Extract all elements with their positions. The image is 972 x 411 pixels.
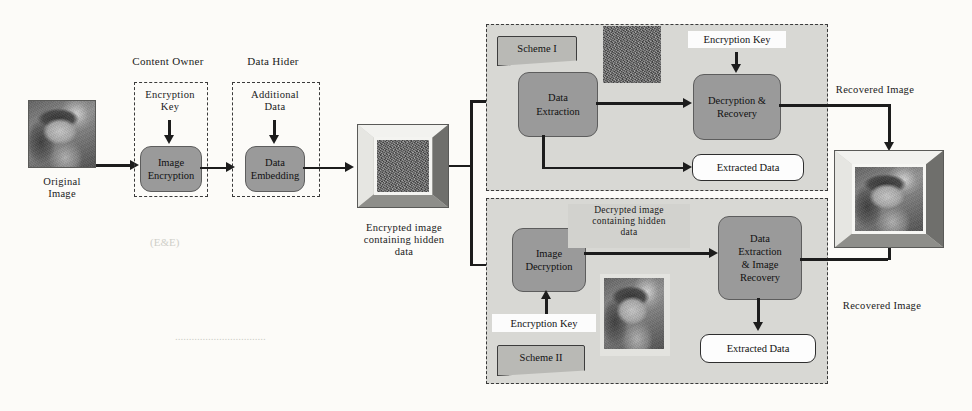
scheme-two-recovered-image-label: Recovered Image — [826, 300, 938, 312]
arrowhead-data-to-embedding — [269, 135, 279, 144]
original-image-caption: Original Image — [14, 176, 110, 200]
scheme-two-banner: Scheme II — [497, 345, 585, 370]
decrypted-image-thumbnail — [600, 274, 670, 356]
scheme-one-recovered-image-label: Recovered Image — [820, 84, 930, 96]
arrowhead-extraction2-to-extracted — [753, 322, 763, 331]
decrypted-caption-line1: Decrypted image — [568, 205, 690, 216]
connector-encryption-to-embedding — [200, 167, 228, 170]
arrowhead-key-to-decryption-recovery — [731, 64, 741, 73]
scheme-one-banner: Scheme I — [497, 36, 577, 60]
encrypted-noise-block — [377, 140, 429, 192]
encrypted-caption-line3: data — [348, 246, 460, 258]
scheme-one-encrypted-preview — [603, 26, 661, 83]
background-smudge: ................................. — [175, 330, 266, 342]
arrowhead-key2-to-decryption — [541, 290, 551, 299]
background-smudge: (E&E) — [150, 236, 179, 248]
scheme-two-extracted-data-label: Extracted Data — [727, 343, 790, 354]
encrypted-caption-line2: containing hidden — [348, 234, 460, 246]
arrowhead-decryption-to-extraction2 — [709, 248, 718, 258]
arrowhead-key-to-encryption — [164, 135, 174, 144]
decryption-recovery-label: Decryption & Recovery — [708, 94, 766, 120]
recovered-image-frame — [834, 150, 944, 248]
scheme-one-extracted-data[interactable]: Extracted Data — [692, 154, 804, 181]
scheme-one-banner-label: Scheme I — [517, 43, 556, 54]
image-encryption-label: Image Encryption — [148, 156, 195, 182]
additional-data-label: Additional Data — [232, 89, 318, 113]
data-extraction-process[interactable]: Data Extraction — [518, 72, 598, 137]
original-image-caption-line1: Original — [14, 176, 110, 188]
connector-recovery-to-recovered-v — [888, 104, 891, 144]
original-image-thumbnail — [28, 100, 96, 168]
arrowhead-extraction-to-extracted — [683, 162, 692, 172]
arrowhead-embedding-to-encrypted — [345, 162, 354, 172]
decrypted-caption-line2: containing hidden — [568, 216, 690, 227]
encrypted-image-frame — [357, 124, 449, 208]
scheme-two-extracted-data[interactable]: Extracted Data — [700, 334, 816, 363]
data-embedding-process[interactable]: Data Embedding — [245, 146, 305, 192]
data-extraction-image-recovery-label: Data Extraction & Image Recovery — [738, 232, 782, 285]
data-embedding-label: Data Embedding — [251, 156, 299, 182]
connector-extraction2-to-recovered-h — [800, 258, 888, 261]
encryption-key-1-label: Encryption Key — [128, 89, 212, 113]
encryption-key-1-line1: Encryption — [128, 89, 212, 101]
content-owner-label: Content Owner — [118, 55, 218, 68]
data-hider-label: Data Hider — [225, 55, 321, 68]
diagram-canvas: (E&E) ................................. … — [0, 0, 972, 411]
image-encryption-process[interactable]: Image Encryption — [140, 146, 202, 192]
scheme-one-encryption-key-label: Encryption Key — [704, 34, 771, 45]
data-extraction-label: Data Extraction — [536, 91, 580, 117]
encrypted-caption-line1: Encrypted image — [348, 222, 460, 234]
data-extraction-image-recovery-process[interactable]: Data Extraction & Image Recovery — [718, 216, 802, 300]
connector-extraction-to-extracted-v — [542, 135, 545, 169]
connector-extraction-to-extracted-h — [542, 167, 686, 170]
connector-encrypted-bus-vertical — [470, 100, 473, 266]
scheme-one-extracted-data-label: Extracted Data — [717, 162, 780, 173]
connector-original-to-encryption — [96, 164, 132, 167]
scheme-two-encryption-key-label: Encryption Key — [511, 318, 578, 329]
decrypted-caption-line3: data — [568, 227, 690, 238]
recovered-image-mat — [852, 164, 926, 234]
decrypted-image-caption: Decrypted image containing hidden data — [568, 205, 690, 238]
arrowhead-extraction-to-recovery — [683, 98, 692, 108]
image-decryption-label: Image Decryption — [525, 247, 572, 273]
scheme-one-encryption-key: Encryption Key — [688, 31, 786, 48]
connector-extraction-to-recovery — [596, 102, 686, 105]
encrypted-image-mat — [374, 137, 432, 195]
connector-embedding-to-encrypted — [303, 167, 349, 170]
connector-key2-to-decryption — [545, 297, 548, 315]
additional-data-line1: Additional — [232, 89, 318, 101]
encrypted-image-caption: Encrypted image containing hidden data — [348, 222, 460, 258]
connector-recovery-to-recovered-h — [779, 104, 891, 107]
encryption-key-1-line2: Key — [128, 101, 212, 113]
additional-data-line2: Data — [232, 101, 318, 113]
decryption-recovery-process[interactable]: Decryption & Recovery — [693, 74, 781, 140]
connector-decryption-to-extraction2 — [584, 252, 712, 255]
scheme-two-banner-label: Scheme II — [520, 352, 563, 363]
original-image-caption-line2: Image — [14, 188, 110, 200]
scheme-two-encryption-key: Encryption Key — [492, 314, 596, 332]
